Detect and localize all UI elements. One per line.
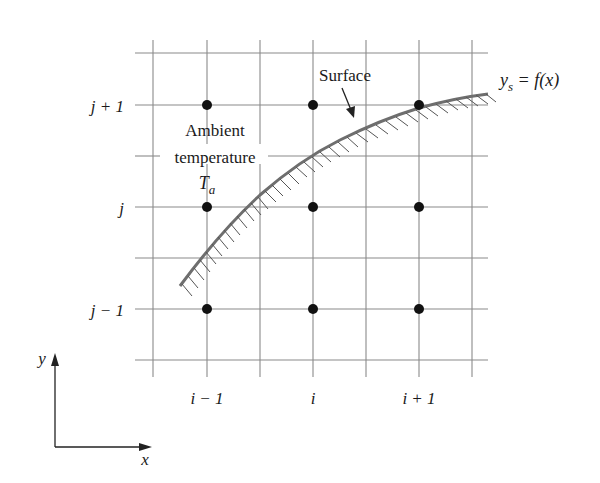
row-label-j-minus-1: j − 1 <box>89 301 124 320</box>
col-label-i-minus-1: i − 1 <box>190 389 223 408</box>
node-i-jm1 <box>308 304 318 314</box>
node-ip1-jm1 <box>414 304 424 314</box>
surface-pointer-arrow <box>342 88 355 118</box>
node-i-jp1 <box>308 100 318 110</box>
node-im1-jm1 <box>202 304 212 314</box>
x-axis-label: x <box>140 450 149 469</box>
node-im1-jp1 <box>202 100 212 110</box>
node-im1-j <box>202 202 212 212</box>
grid-diagram: j + 1 j j − 1 i − 1 i i + 1 Ambient temp… <box>0 0 600 483</box>
surface-label: Surface <box>319 66 371 85</box>
surface-equation: ys = f(x) <box>498 70 559 94</box>
node-i-j <box>308 202 318 212</box>
node-ip1-j <box>414 202 424 212</box>
coordinate-axes <box>51 353 152 451</box>
row-label-j-plus-1: j + 1 <box>89 97 124 116</box>
row-label-j: j <box>117 199 124 218</box>
ambient-label-line1: Ambient <box>185 121 245 140</box>
y-axis-label: y <box>36 349 46 368</box>
col-label-i-plus-1: i + 1 <box>402 389 435 408</box>
col-label-i: i <box>311 389 316 408</box>
y-axis-arrowhead <box>51 353 59 366</box>
ambient-label-line2: temperature <box>174 148 255 167</box>
node-ip1-jp1 <box>414 100 424 110</box>
